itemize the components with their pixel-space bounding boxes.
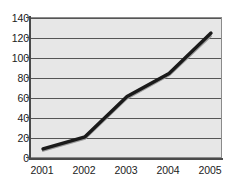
gridlines	[31, 19, 222, 139]
x-axis-line	[29, 158, 223, 160]
y-axis-tick-label: 20	[3, 133, 29, 143]
y-axis-tick-label: 80	[3, 73, 29, 83]
plot-canvas	[31, 18, 222, 158]
trendline-series	[43, 36, 211, 151]
x-axis-tick-label: 2005	[190, 165, 230, 176]
y-axis-tick-label: 60	[3, 93, 29, 103]
line-chart: 140 120 100 80 60 40 20 0	[0, 0, 237, 185]
data-line-series	[43, 33, 211, 149]
y-axis-tick-label: 140	[3, 13, 29, 23]
y-axis-line	[29, 16, 31, 160]
y-axis-tick-label: 120	[3, 33, 29, 43]
y-axis-tick-label: 100	[3, 53, 29, 63]
x-axis-tick-label: 2003	[106, 165, 146, 176]
x-axis-tick-label: 2004	[148, 165, 188, 176]
plot-area	[30, 17, 222, 158]
y-axis-tick-label: 40	[3, 113, 29, 123]
x-axis-tick-label: 2002	[64, 165, 104, 176]
y-axis-tick-label: 0	[3, 153, 29, 163]
x-axis-tick-label: 2001	[22, 165, 62, 176]
